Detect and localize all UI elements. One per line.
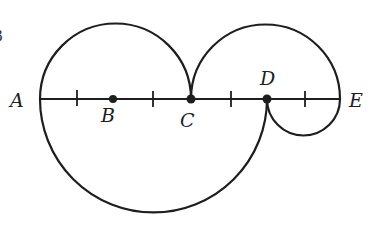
label-c: C (180, 109, 195, 131)
point-c-dot (187, 95, 196, 104)
clipped-margin-glyph: 3 (0, 28, 3, 44)
label-b: B (100, 104, 115, 126)
label-a: A (8, 89, 24, 111)
label-d: D (259, 67, 275, 89)
upper-left-semicircle (40, 24, 191, 100)
lower-small-semicircle (267, 99, 340, 136)
point-d-dot (263, 95, 272, 104)
semicircle-curve-diagram: 3 A B C D E (0, 0, 374, 228)
point-b-dot (109, 95, 117, 103)
lower-large-semicircle (40, 99, 267, 212)
label-e: E (348, 89, 363, 111)
